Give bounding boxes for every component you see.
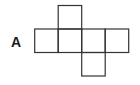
net-square <box>58 29 81 53</box>
cube-net-diagram <box>0 0 140 85</box>
net-square <box>82 53 106 77</box>
net-cells <box>35 6 129 77</box>
net-square <box>35 29 59 53</box>
net-square <box>82 29 106 53</box>
net-square <box>105 29 129 53</box>
net-square <box>58 6 81 30</box>
